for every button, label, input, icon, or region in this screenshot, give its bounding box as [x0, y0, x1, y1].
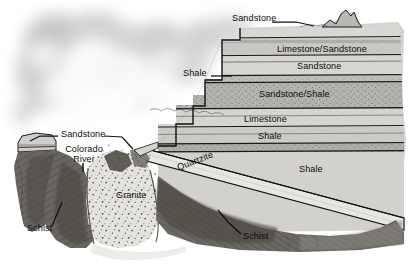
cross-section-drawing — [0, 0, 414, 268]
canyon-floor — [90, 244, 186, 260]
geologic-cross-section-figure: Sandstone Limestone/Sandstone Sandstone … — [0, 0, 414, 268]
granite-core — [82, 148, 160, 248]
